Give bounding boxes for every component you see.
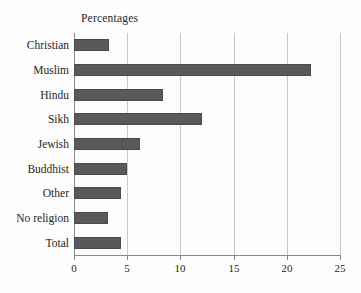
bar-hindu[interactable] xyxy=(74,89,163,101)
x-tick-mark-0 xyxy=(74,256,75,260)
bar-sikh[interactable] xyxy=(74,113,202,125)
y-axis-label-total: Total xyxy=(0,237,69,249)
bar-buddhist[interactable] xyxy=(74,163,127,175)
chart-title: Percentages xyxy=(81,12,138,24)
y-axis-label-other: Other xyxy=(0,187,69,199)
gridline-25 xyxy=(340,33,341,255)
x-tick-label-10: 10 xyxy=(167,262,193,274)
x-tick-mark-15 xyxy=(234,256,235,260)
y-axis-label-no-religion: No religion xyxy=(0,212,69,224)
bar-chart: Percentages ChristianMuslimHinduSikhJewi… xyxy=(0,0,361,293)
y-axis-label-jewish: Jewish xyxy=(0,138,69,150)
x-axis-line xyxy=(74,255,341,256)
y-axis-label-muslim: Muslim xyxy=(0,64,69,76)
bar-christian[interactable] xyxy=(74,39,109,51)
x-tick-mark-20 xyxy=(287,256,288,260)
bar-other[interactable] xyxy=(74,187,121,199)
x-tick-label-15: 15 xyxy=(221,262,247,274)
x-tick-label-5: 5 xyxy=(114,262,140,274)
bar-no-religion[interactable] xyxy=(74,212,108,224)
x-tick-mark-25 xyxy=(340,256,341,260)
x-tick-mark-5 xyxy=(127,256,128,260)
bar-jewish[interactable] xyxy=(74,138,140,150)
x-tick-label-20: 20 xyxy=(274,262,300,274)
y-axis-label-sikh: Sikh xyxy=(0,113,69,125)
y-axis-label-christian: Christian xyxy=(0,39,69,51)
y-axis-label-buddhist: Buddhist xyxy=(0,163,69,175)
x-tick-label-25: 25 xyxy=(327,262,353,274)
x-tick-label-0: 0 xyxy=(61,262,87,274)
x-tick-mark-10 xyxy=(180,256,181,260)
y-axis-label-hindu: Hindu xyxy=(0,89,69,101)
bar-muslim[interactable] xyxy=(74,64,311,76)
bar-total[interactable] xyxy=(74,237,121,249)
